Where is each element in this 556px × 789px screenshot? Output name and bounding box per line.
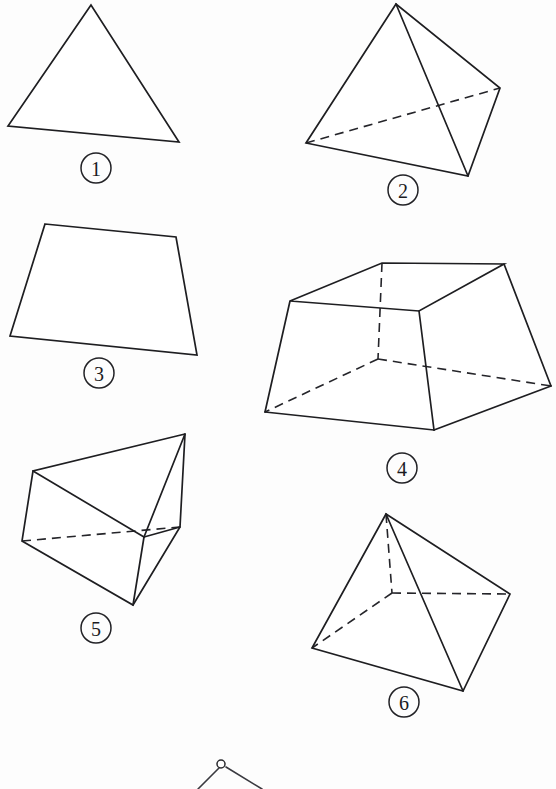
figure-3-trapezoid[interactable]: 3 — [10, 224, 197, 388]
worksheet-page: 1 2 3 — [0, 0, 556, 789]
figure-1-label: 1 — [81, 153, 111, 183]
figure-5-label: 5 — [81, 613, 111, 643]
figure-5-label-text: 5 — [91, 618, 101, 640]
figure-2-label-text: 2 — [398, 180, 408, 202]
figure-7-right-edge — [226, 767, 262, 789]
figure-2-label: 2 — [388, 175, 418, 205]
figure-7-partial[interactable] — [198, 760, 262, 789]
figure-4-label-text: 4 — [397, 458, 407, 480]
figure-7-left-edge — [198, 768, 219, 789]
figure-5-triangular-prism[interactable]: 5 — [22, 434, 185, 643]
figure-5-body-face — [22, 434, 185, 605]
figure-6-label-text: 6 — [399, 692, 409, 714]
figure-4-square-frustum[interactable]: 4 — [265, 263, 551, 483]
figures-canvas: 1 2 3 — [0, 0, 556, 789]
figure-6-square-pyramid[interactable]: 6 — [312, 514, 510, 717]
figure-6-label: 6 — [389, 687, 419, 717]
figure-2-face — [306, 4, 500, 176]
figure-3-label: 3 — [84, 358, 114, 388]
figure-4-body-face — [265, 263, 551, 430]
figure-1-label-text: 1 — [91, 158, 101, 180]
figure-2-tetrahedron[interactable]: 2 — [306, 4, 500, 205]
figure-7-apex-vertex-icon — [217, 760, 225, 768]
figure-1-triangle[interactable]: 1 — [8, 5, 179, 183]
figure-4-label: 4 — [387, 453, 417, 483]
figure-1-face — [8, 5, 179, 142]
figure-6-body-face — [312, 514, 510, 691]
figure-3-label-text: 3 — [94, 363, 104, 385]
